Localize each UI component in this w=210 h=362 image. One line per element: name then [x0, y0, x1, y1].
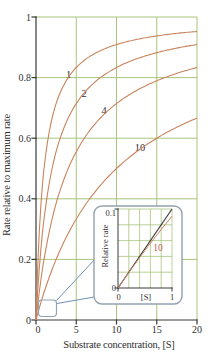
inset-x-tick-label-one: 1	[170, 292, 174, 302]
x-tick-label: 5	[74, 324, 79, 335]
y-tick-label: 0.6	[19, 133, 32, 144]
x-tick-label: 15	[152, 324, 162, 335]
y-tick-label: 0.2	[19, 254, 32, 265]
y-tick-label: 1	[26, 12, 31, 23]
inset-curve-label-10: 10	[153, 243, 163, 253]
inset-y-tick-label-zero: 0	[112, 283, 116, 293]
x-tick-label: 10	[112, 324, 122, 335]
y-tick-label: 0.4	[19, 193, 32, 204]
inset-y-tick-label-top: 0.1	[105, 208, 116, 218]
x-tick-label: 20	[192, 324, 202, 335]
x-tick-label: 0	[36, 324, 41, 335]
y-tick-label: 0	[26, 315, 31, 326]
y-tick-label: 0.8	[19, 72, 32, 83]
x-axis-title: Substrate concentration, [S]	[63, 339, 174, 350]
y-axis-title: Rate relative to maximum rate	[1, 114, 12, 236]
chart-canvas: 0510152000.20.40.60.81Substrate concentr…	[0, 0, 210, 362]
inset-y-axis-title: Relative rate	[100, 224, 110, 267]
inset-chart: 0.1001[S]Relative rate10	[94, 206, 182, 304]
inset-x-tick-label-zero: 0	[116, 292, 120, 302]
michaelis-menten-figure: 0510152000.20.40.60.81Substrate concentr…	[0, 0, 210, 362]
inset-x-axis-title: [S]	[141, 292, 152, 302]
